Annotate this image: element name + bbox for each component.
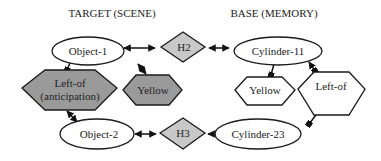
node-object-1: Object-1 (52, 37, 124, 65)
edge-leftof-object2 (67, 111, 77, 122)
analogy-mapping-diagram: TARGET (SCENE) BASE (MEMORY) Object-1 H2 (0, 0, 381, 161)
node-label-line2: (anticipation) (40, 90, 100, 103)
node-label: Yellow (137, 84, 168, 96)
node-label: Yellow (249, 84, 280, 96)
edge-leftof-cylinder23 (309, 115, 316, 124)
edge-object1-leftof (67, 63, 70, 70)
node-label: Cylinder-23 (232, 128, 285, 140)
base-memory-title: BASE (MEMORY) (230, 7, 317, 20)
node-yellow-base: Yellow (235, 77, 295, 105)
node-left-of-anticipation: Left-of (anticipation) (22, 70, 117, 110)
node-cylinder-11: Cylinder-11 (234, 37, 322, 65)
node-label-line1: Left-of (54, 77, 85, 89)
node-label: Left-of (315, 80, 346, 92)
target-scene-title: TARGET (SCENE) (68, 7, 156, 20)
node-cylinder-23: Cylinder-23 (215, 119, 301, 149)
node-label: Cylinder-11 (252, 45, 305, 57)
node-yellow-target: Yellow (123, 75, 182, 105)
node-label: Object-1 (69, 45, 107, 57)
node-h3: H3 (160, 118, 205, 149)
hexagon-shape (298, 72, 365, 115)
node-label: H3 (176, 127, 190, 139)
node-h2: H2 (161, 32, 205, 62)
node-object-2: Object-2 (60, 119, 134, 149)
node-label: Object-2 (80, 128, 118, 140)
node-left-of-base: Left-of (298, 72, 365, 115)
edge-object1-yellow (138, 64, 146, 74)
edge-cylinder11-leftof (309, 62, 315, 71)
node-label: H2 (177, 41, 190, 53)
edge-cylinder11-yellow (271, 64, 274, 75)
